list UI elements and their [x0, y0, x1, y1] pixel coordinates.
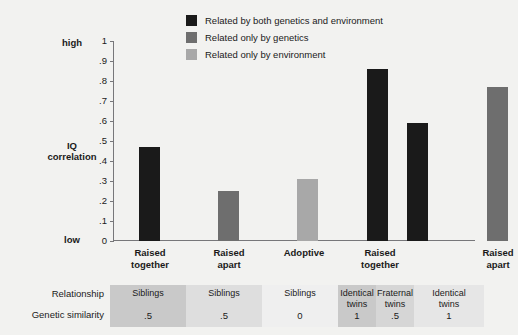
y-tick-mark: [110, 141, 114, 142]
table-cell-genetic-similarity: 1: [414, 310, 484, 321]
table-cell-genetic-similarity: .5: [376, 310, 414, 321]
table-cell-relationship: Fraternal twins: [377, 288, 413, 309]
y-tick-label: .3: [99, 176, 107, 186]
category-label-line2: apart: [217, 259, 240, 270]
table-cell: Siblings.5: [186, 285, 262, 327]
legend-swatch-both: [186, 15, 197, 26]
category-label-line1: Raised: [482, 247, 513, 258]
y-tick-mark: [110, 241, 114, 242]
y-tick-label: .5: [99, 136, 107, 146]
table-cell: Fraternal twins.5: [376, 285, 414, 327]
y-tick-label: .6: [99, 116, 107, 126]
bar: [218, 191, 239, 241]
y-tick-label: .8: [99, 76, 107, 86]
table-cell-genetic-similarity: .5: [110, 310, 186, 321]
bar: [297, 179, 318, 241]
legend-label-both: Related by both genetics and environment: [205, 15, 383, 26]
category-label: Raisedtogether: [120, 247, 180, 271]
table-cell: Identical twins1: [414, 285, 484, 327]
y-axis-title-line2: correlation: [47, 151, 96, 162]
y-tick-mark: [110, 61, 114, 62]
category-label-line2: apart: [486, 259, 509, 270]
category-label: Raisedtogether: [350, 247, 410, 271]
table-cell: Siblings.5: [110, 285, 186, 327]
bar: [367, 69, 388, 241]
category-label-line1: Raised: [213, 247, 244, 258]
plot-area: 0.1.2.3.4.5.6.7.8.91: [113, 41, 475, 241]
bar: [487, 87, 508, 241]
y-tick-mark: [110, 181, 114, 182]
category-label: Adoptive: [274, 247, 334, 259]
y-tick-label: .9: [99, 56, 107, 66]
axis-high-label: high: [49, 37, 95, 48]
table-cell: Siblings0: [262, 285, 338, 327]
axis-low-label: low: [49, 234, 95, 245]
bar: [407, 123, 428, 241]
table-cell-relationship: Siblings: [284, 288, 316, 299]
y-tick-mark: [110, 121, 114, 122]
category-label-line1: Adoptive: [284, 247, 325, 258]
table-cell-genetic-similarity: .5: [186, 310, 262, 321]
category-label: Raisedapart: [199, 247, 259, 271]
y-tick-label: .1: [99, 216, 107, 226]
table-cell-relationship: Identical twins: [432, 288, 466, 309]
y-tick-mark: [110, 101, 114, 102]
category-label: Raisedapart: [468, 247, 518, 271]
category-labels: RaisedtogetherRaisedapartAdoptiveRaisedt…: [113, 247, 475, 275]
y-tick-label: .7: [99, 96, 107, 106]
table-row-header-relationship: Relationship: [52, 288, 104, 299]
table-cell-relationship: Siblings: [132, 288, 164, 299]
table-cell-relationship: Siblings: [208, 288, 240, 299]
legend-item-both: Related by both genetics and environment: [186, 13, 383, 27]
y-tick-mark: [110, 221, 114, 222]
y-tick-mark: [110, 81, 114, 82]
category-label-line2: together: [131, 259, 169, 270]
table-cell-relationship: Identical twins: [340, 288, 374, 309]
category-label-line1: Raised: [364, 247, 395, 258]
y-tick-mark: [110, 41, 114, 42]
table-row-header-genetic-similarity: Genetic similarity: [32, 309, 104, 320]
y-tick-label: 0: [102, 236, 107, 246]
y-tick-mark: [110, 161, 114, 162]
table-cell-genetic-similarity: 1: [338, 310, 376, 321]
y-tick-label: .2: [99, 196, 107, 206]
y-tick-label: 1: [102, 36, 107, 46]
bar: [139, 147, 160, 241]
y-axis-title-line1: IQ: [67, 140, 77, 151]
category-label-line2: together: [361, 259, 399, 270]
y-tick-label: .4: [99, 156, 107, 166]
table-row-headers: Relationship Genetic similarity: [0, 285, 110, 327]
table-cell-genetic-similarity: 0: [262, 310, 338, 321]
relationship-table: Relationship Genetic similarity Siblings…: [0, 285, 484, 327]
y-tick-mark: [110, 201, 114, 202]
table-cell: Identical twins1: [338, 285, 376, 327]
category-label-line1: Raised: [134, 247, 165, 258]
y-axis-title: IQ correlation: [38, 140, 106, 162]
